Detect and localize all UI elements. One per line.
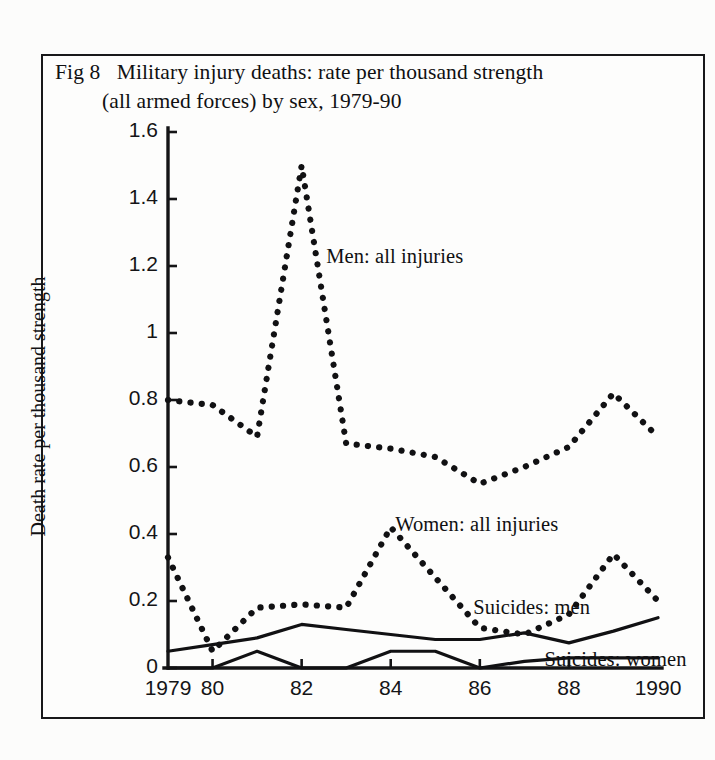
series-label-3: Suicides: women [544, 648, 686, 671]
x-tick-label: 82 [259, 676, 345, 700]
figure-title-line-2: (all armed forces) by sex, 1979-90 [55, 87, 675, 116]
series-label-0: Men: all injuries [326, 245, 463, 268]
y-tick-label: 0.2 [96, 587, 158, 611]
x-tick-label: 88 [526, 676, 612, 700]
y-tick-label: 0.8 [96, 386, 158, 410]
figure-title-line-1: Fig 8 Military injury deaths: rate per t… [55, 58, 675, 87]
y-tick-label: 1.4 [96, 185, 158, 209]
y-tick-label: 1.6 [96, 118, 158, 142]
x-tick-label: 84 [348, 676, 434, 700]
x-tick-label: 1990 [615, 676, 701, 700]
y-tick-label: 0 [96, 654, 158, 678]
y-tick-label: 1 [96, 319, 158, 343]
figure-title: Fig 8 Military injury deaths: rate per t… [55, 58, 675, 115]
y-tick-label: 0.4 [96, 520, 158, 544]
x-tick-label: 80 [170, 676, 256, 700]
series-label-2: Suicides: men [473, 596, 590, 619]
x-tick-label: 86 [437, 676, 523, 700]
scanned-page: Fig 8 Military injury deaths: rate per t… [0, 0, 715, 760]
series-label-1: Women: all injuries [395, 513, 558, 536]
y-axis-title: Death rate per thousand strength [27, 237, 50, 577]
y-tick-label: 0.6 [96, 453, 158, 477]
y-tick-label: 1.2 [96, 252, 158, 276]
